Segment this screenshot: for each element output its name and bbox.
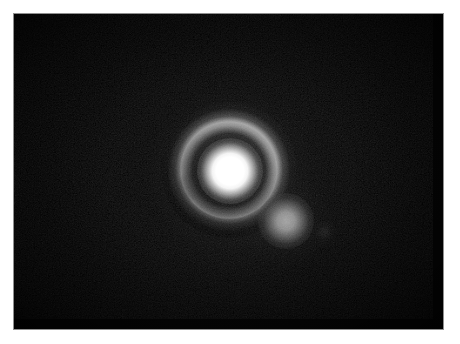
primary-halo-ring	[161, 102, 297, 238]
image-canvas: Monochrome astronomical exposure of a br…	[0, 0, 460, 344]
film-grain-texture	[14, 14, 433, 319]
plate-vignette	[14, 14, 443, 329]
faint-speckle-right	[314, 219, 336, 245]
primary-source-glow	[149, 90, 309, 250]
primary-halo-ring-asymmetry	[161, 102, 297, 238]
sky-background-wash	[14, 14, 443, 329]
companion-source-core	[258, 193, 314, 249]
faint-speckle-left	[177, 172, 203, 202]
companion-source-glow	[241, 176, 331, 266]
astronomical-image-field	[14, 14, 443, 329]
primary-dark-moat	[201, 142, 259, 200]
primary-source-core	[197, 138, 263, 204]
